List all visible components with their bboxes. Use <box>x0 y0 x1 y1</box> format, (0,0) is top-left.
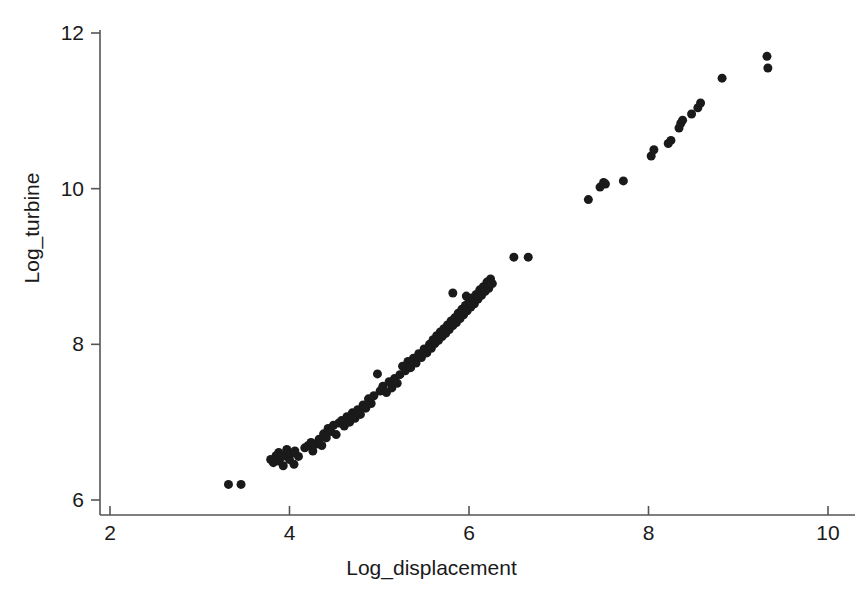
x-tick-label: 10 <box>816 521 839 545</box>
data-point <box>696 99 705 108</box>
x-axis-ticks <box>110 506 828 515</box>
x-tick-label: 6 <box>463 521 475 545</box>
axis-lines <box>100 30 855 515</box>
data-point <box>237 480 246 489</box>
y-axis-label: Log_turbine <box>20 8 44 448</box>
data-point <box>448 288 457 297</box>
x-tick-label: 8 <box>643 521 655 545</box>
data-point <box>373 369 382 378</box>
x-tick-label: 2 <box>104 521 116 545</box>
y-tick-label: 10 <box>40 177 84 201</box>
y-axis-ticks <box>91 33 100 500</box>
x-tick-label: 4 <box>284 521 296 545</box>
y-tick-label: 12 <box>40 21 84 45</box>
y-tick-label: 6 <box>40 488 84 512</box>
data-point <box>393 379 402 388</box>
data-point <box>666 136 675 145</box>
data-point <box>294 452 303 461</box>
data-point <box>763 64 772 73</box>
data-point <box>524 253 533 262</box>
data-point-group <box>224 52 772 489</box>
y-tick-label: 8 <box>40 332 84 356</box>
data-point <box>488 279 497 288</box>
data-point <box>224 480 233 489</box>
data-point <box>317 441 326 450</box>
scatter-plot-figure: Log_displacement Log_turbine 246810 6810… <box>0 0 863 606</box>
data-point <box>718 74 727 83</box>
data-point <box>649 145 658 154</box>
data-point <box>367 399 376 408</box>
x-axis-label: Log_displacement <box>0 556 863 580</box>
data-point <box>619 176 628 185</box>
data-point <box>332 430 341 439</box>
data-point <box>601 179 610 188</box>
data-point <box>678 116 687 125</box>
data-point <box>584 195 593 204</box>
data-point <box>289 460 298 469</box>
data-point <box>762 52 771 61</box>
data-point <box>509 253 518 262</box>
plot-canvas <box>0 0 863 606</box>
